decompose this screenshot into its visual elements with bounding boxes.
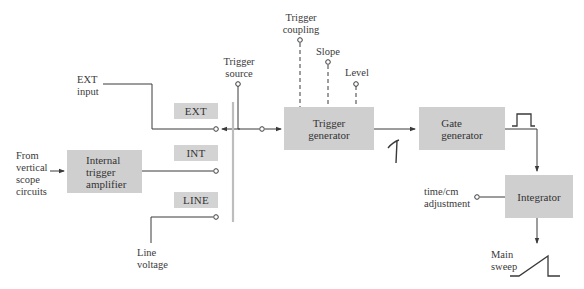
ext-source-tag: EXT [174, 103, 218, 119]
level-label: Level [345, 67, 369, 79]
slope-label: Slope [316, 46, 340, 58]
gate-generator-label: Gate generator [441, 117, 483, 141]
int-source-tag: INT [174, 145, 218, 161]
ext-tag-label: EXT [185, 105, 207, 117]
gate-generator-block: Gate generator [419, 107, 505, 150]
spike-waveform-icon [386, 139, 400, 164]
int-tag-label: INT [186, 147, 205, 159]
trigger-generator-block: Trigger generator [284, 107, 374, 150]
trigger-coupling-label: Trigger coupling [276, 12, 326, 36]
internal-trigger-amplifier-block: Internal trigger amplifier [67, 150, 142, 193]
trigger-source-label: Trigger source [214, 56, 264, 80]
from-vertical-label: From vertical scope circuits [16, 150, 47, 198]
line-voltage-label: Line voltage [137, 247, 168, 271]
integrator-label: Integrator [517, 191, 560, 203]
internal-trigger-amplifier-label: Internal trigger amplifier [86, 154, 126, 190]
square-pulse-icon [512, 113, 536, 127]
line-tag-label: LINE [183, 194, 209, 206]
time-cm-adjustment-label: time/cm adjustment [424, 186, 470, 210]
integrator-block: Integrator [505, 175, 573, 218]
sawtooth-ramp-icon [510, 255, 560, 277]
line-source-tag: LINE [174, 192, 218, 208]
block-diagram: EXT INT LINE Internal trigger amplifier … [0, 0, 584, 289]
ext-input-label: EXT input [77, 74, 99, 98]
trigger-generator-label: Trigger generator [308, 117, 350, 141]
